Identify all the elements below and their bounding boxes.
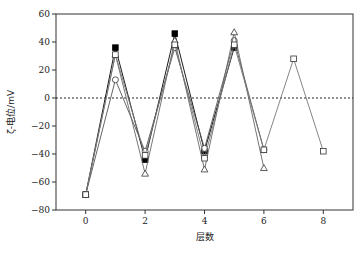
series-open-square bbox=[83, 42, 326, 197]
axes bbox=[56, 14, 353, 210]
x-tick-label: 4 bbox=[202, 216, 208, 226]
data-point bbox=[83, 192, 89, 198]
data-point bbox=[142, 153, 148, 159]
data-point bbox=[321, 148, 327, 154]
y-tick-label: −40 bbox=[31, 149, 50, 159]
y-tick-label: 0 bbox=[44, 93, 50, 103]
series-group bbox=[82, 29, 326, 198]
zeta-potential-chart: −80−60−40−20020406002468 层数 ζ-电位/mV bbox=[0, 0, 361, 255]
data-point bbox=[231, 29, 238, 35]
data-point bbox=[201, 166, 208, 172]
data-point bbox=[172, 31, 178, 37]
series-line-filled-square bbox=[86, 34, 235, 195]
x-tick-label: 2 bbox=[142, 216, 148, 226]
data-point bbox=[202, 155, 208, 161]
y-tick-label: 20 bbox=[39, 65, 51, 75]
y-tick-label: 40 bbox=[39, 37, 51, 47]
y-axis-title: ζ-电位/mV bbox=[5, 89, 16, 134]
data-point bbox=[142, 170, 149, 176]
x-tick-label: 0 bbox=[83, 216, 89, 226]
y-tick-label: 60 bbox=[39, 9, 51, 19]
y-tick-label: −60 bbox=[31, 177, 50, 187]
data-point bbox=[231, 42, 237, 48]
data-point bbox=[291, 56, 297, 62]
data-point bbox=[172, 42, 178, 48]
x-axis-title: 层数 bbox=[196, 231, 214, 242]
ticks-group: −80−60−40−20020406002468 bbox=[31, 9, 326, 226]
data-point bbox=[113, 45, 119, 51]
y-tick-label: −80 bbox=[31, 205, 50, 215]
x-tick-label: 8 bbox=[320, 216, 326, 226]
y-tick-label: −20 bbox=[31, 121, 50, 131]
series-open-triangle bbox=[82, 29, 267, 197]
data-point bbox=[112, 77, 118, 83]
x-tick-label: 6 bbox=[261, 216, 267, 226]
plot-frame bbox=[56, 14, 353, 210]
data-point bbox=[261, 165, 268, 171]
data-point bbox=[113, 52, 119, 58]
data-point bbox=[261, 147, 267, 153]
